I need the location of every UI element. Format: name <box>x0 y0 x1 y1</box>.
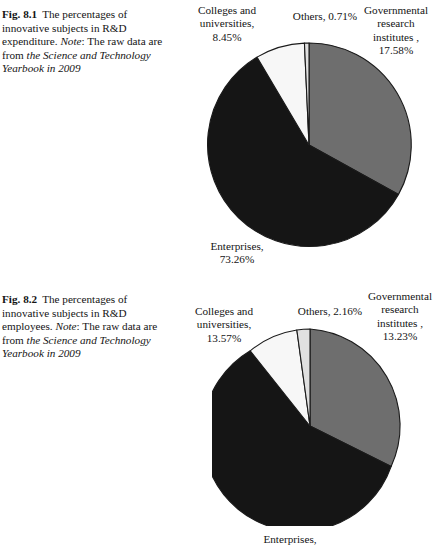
pie-chart-employees <box>212 328 410 526</box>
pie-label-enterprises: Enterprises, 73.26% <box>176 240 298 267</box>
figure-8-2-caption: Fig. 8.2The percentages of innovative su… <box>2 293 170 361</box>
figure-8-1-note-separator: : <box>82 35 85 47</box>
pie-label-governmental-research-institutes: Governmental research institutes , 17.58… <box>356 4 436 58</box>
figure-8-2-note-source: the Science and Technology Yearbook in 2… <box>2 334 151 360</box>
figure-8-1-note-source: the Science and Technology Yearbook in 2… <box>2 49 151 75</box>
pie-label-colleges-and-universities: Colleges and universities, 8.45% <box>180 4 274 44</box>
figure-8-1-note-label: Note <box>60 35 81 47</box>
pie-chart-expenditure <box>206 42 414 250</box>
figure-8-2-note-separator: : <box>77 320 80 332</box>
figure-8-1-label: Fig. 8.1 <box>2 8 37 20</box>
figure-8-1-caption: Fig. 8.1The percentages of innovative su… <box>2 8 170 76</box>
pie-label-governmental-research-institutes: Governmental research institutes , 13.23… <box>362 290 438 344</box>
pie-label-enterprises: Enterprises, <box>230 533 350 546</box>
figure-8-2: Fig. 8.2The percentages of innovative su… <box>0 285 438 548</box>
figure-8-1: Fig. 8.1The percentages of innovative su… <box>0 0 438 285</box>
figure-8-1-chart: Colleges and universities, 8.45% Others,… <box>170 0 438 285</box>
pie-label-colleges-and-universities: Colleges and universities, 13.57% <box>172 305 276 345</box>
figure-8-2-chart: Colleges and universities, 13.57% Others… <box>170 285 438 548</box>
figure-8-2-label: Fig. 8.2 <box>2 293 37 305</box>
figure-8-2-note-label: Note <box>55 320 76 332</box>
